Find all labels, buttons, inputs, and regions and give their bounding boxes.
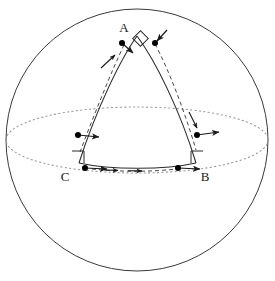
vector-apex-right [157,30,167,41]
edge-a-to-c [79,36,137,163]
dot-base-right [175,165,181,171]
vector-left-arc-travel [101,55,115,68]
dot-meridian-right [194,132,200,138]
vector-meridian-right [197,132,219,135]
vector-right-arc-travel [189,112,197,128]
figure-canvas: A B C [0,0,275,281]
dot-meridian-left [75,132,81,138]
vertex-label-b: B [201,169,210,184]
vector-base-left [85,168,107,169]
vertex-label-a: A [119,20,129,35]
transport-path-right-meridian [155,44,196,150]
vector-base-right [178,168,200,169]
equator-ellipse [6,107,268,173]
dot-base-left [82,165,88,171]
edge-a-to-b [137,36,196,163]
dot-apex-right [152,40,158,46]
spherical-triangle-figure: A B C [0,0,275,281]
dot-apex-left [119,40,125,46]
sphere-outline [6,9,268,271]
vertex-label-c: C [61,169,70,184]
